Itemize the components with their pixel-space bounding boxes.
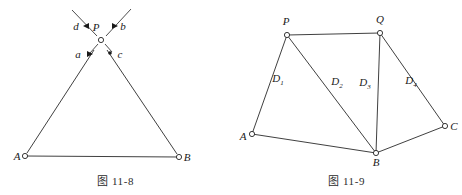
node-B <box>373 150 378 155</box>
figure-11-9-caption: 图 11-9 <box>231 172 462 188</box>
dot-c <box>108 51 112 55</box>
edge-P-B <box>287 35 376 153</box>
node-A <box>22 153 27 158</box>
label-distance-D1: D1 <box>271 72 283 87</box>
label-distance-D1-base: D <box>271 72 280 84</box>
label-distance-D2-sub: 2 <box>339 82 343 90</box>
label-node-B: B <box>184 151 191 163</box>
ray-b <box>106 9 131 36</box>
figure-11-8-caption: 图 11-8 <box>0 172 231 188</box>
label-distance-D2: D2 <box>330 75 343 90</box>
label-distance-D4-base: D <box>404 74 413 86</box>
node-A <box>249 131 254 136</box>
ray-c-stub <box>105 44 112 52</box>
label-distance-D2-base: D <box>330 75 339 87</box>
label-node-A: A <box>13 150 21 162</box>
edge-B-P <box>107 50 177 154</box>
label-node-P: P <box>92 21 100 33</box>
figure-11-8-canvas: P A B d b a c <box>0 0 231 172</box>
label-distance-D3: D3 <box>358 76 371 91</box>
figure-11-8: P A B d b a c 图 11-8 <box>0 0 231 195</box>
figure-11-9-canvas: P Q A B C D1 D2 D3 D4 <box>231 0 462 172</box>
label-ray-c: c <box>118 48 123 60</box>
edge-A-P <box>27 50 94 153</box>
label-distance-D3-base: D <box>358 76 367 88</box>
node-P <box>98 37 103 42</box>
label-node-C: C <box>450 120 458 132</box>
node-P <box>284 32 289 37</box>
label-distance-D4: D4 <box>404 74 417 89</box>
edge-A-B <box>252 134 376 153</box>
label-ray-a: a <box>75 48 81 60</box>
label-node-A: A <box>239 130 247 142</box>
label-ray-d: d <box>73 20 79 32</box>
label-distance-D1-sub: 1 <box>280 79 284 87</box>
label-node-Q: Q <box>376 13 384 25</box>
arrowhead-d <box>83 23 89 29</box>
edge-A-B <box>25 156 179 157</box>
label-distance-D3-sub: 3 <box>366 83 371 91</box>
edge-B-Q <box>376 33 380 153</box>
ray-a-stub <box>90 44 98 53</box>
edge-P-Q <box>287 33 380 35</box>
edge-B-C <box>376 126 445 153</box>
node-B <box>176 154 181 159</box>
label-distance-D4-sub: 4 <box>413 81 417 89</box>
label-ray-b: b <box>120 20 126 32</box>
label-node-B: B <box>373 156 380 168</box>
figure-11-9: P Q A B C D1 D2 D3 D4 图 11-9 <box>231 0 462 195</box>
node-Q <box>377 30 382 35</box>
node-C <box>442 123 447 128</box>
label-node-P: P <box>282 15 290 27</box>
